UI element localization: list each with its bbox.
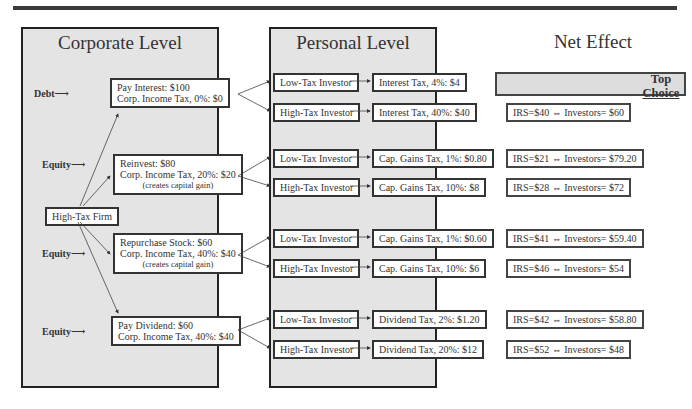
connector-lines xyxy=(0,0,692,409)
firm-to-repurchase-arrow xyxy=(80,222,110,254)
firm-to-interest-arrow xyxy=(80,114,118,206)
firm-to-dividend-arrow xyxy=(78,222,118,313)
corporate-to-investor-arrow xyxy=(238,318,270,330)
corporate-to-investor-arrow xyxy=(238,94,270,111)
corporate-to-investor-arrow xyxy=(238,255,270,267)
corporate-to-investor-arrow xyxy=(238,81,270,94)
corporate-to-investor-arrow xyxy=(238,176,270,186)
corporate-to-investor-arrow xyxy=(238,157,270,176)
firm-to-reinvest-arrow xyxy=(83,176,110,206)
corporate-to-investor-arrow xyxy=(238,237,270,255)
corporate-to-investor-arrow xyxy=(238,330,270,348)
